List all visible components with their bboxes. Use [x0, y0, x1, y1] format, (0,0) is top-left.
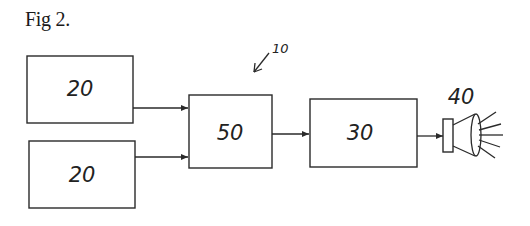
system-reference-label: 10 — [272, 41, 289, 56]
block-input-a-label: 20 — [67, 77, 94, 101]
system-reference: 10 — [254, 41, 289, 72]
block-input-b: 20 — [29, 141, 135, 208]
system-pointer-arrow-icon — [254, 53, 269, 72]
block-input-b-label: 20 — [69, 163, 96, 187]
block-diagram: 10 20 20 50 30 40 — [0, 0, 530, 226]
lamp-label: 40 — [448, 85, 475, 109]
block-driver-label: 30 — [347, 121, 374, 145]
lamp-light-icon — [443, 112, 503, 158]
block-driver: 30 — [310, 99, 417, 167]
block-combiner-label: 50 — [217, 121, 244, 145]
block-input-a: 20 — [27, 56, 133, 123]
lamp: 40 — [443, 85, 503, 158]
block-combiner: 50 — [189, 95, 272, 168]
